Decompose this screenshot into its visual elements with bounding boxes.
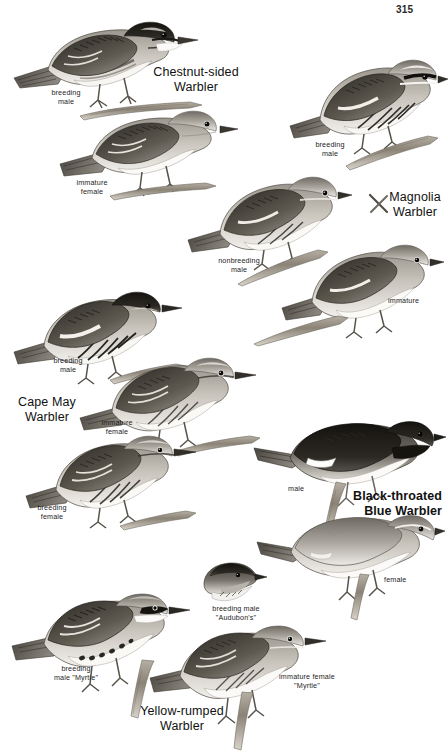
label-magnolia-nonbreeding-male: nonbreeding male	[206, 256, 272, 274]
title-line-2: Warbler	[25, 410, 69, 424]
title-line-1: Cape May	[18, 395, 76, 409]
title-line-1: Chestnut-sided	[153, 65, 238, 79]
label-myrtle-immature-female: immature female "Myrtle"	[262, 672, 352, 690]
bird-audubons-head-vignette	[198, 560, 268, 606]
label-btblue-female: female	[384, 575, 418, 584]
label-magnolia-breeding-male: breeding male	[302, 140, 358, 158]
title-line-1: Yellow-rumped	[140, 704, 224, 718]
label-magnolia-immature: immature	[388, 296, 440, 305]
label-line-1: immature female	[279, 672, 335, 681]
label-line-1: immature	[76, 178, 107, 187]
title-chestnut-sided-warbler: Chestnut-sided Warbler	[136, 65, 256, 96]
label-line-2: female	[81, 187, 103, 196]
label-line-1: breeding	[315, 140, 344, 149]
title-line-1: Black-throated	[353, 489, 442, 503]
label-line-2: "Myrtle"	[294, 681, 320, 690]
title-magnolia-warbler: Magnolia Warbler	[385, 190, 445, 221]
label-line-1: nonbreeding	[218, 256, 260, 265]
title-line-2: Warbler	[160, 719, 204, 733]
page-number: 315	[396, 4, 413, 15]
label-line-2: male "Myrtle"	[54, 673, 98, 682]
title-line-2: Warbler	[174, 80, 218, 94]
label-line-1: breeding	[61, 664, 90, 673]
label-btblue-male: male	[288, 484, 318, 493]
label-line-1: breeding	[37, 503, 66, 512]
label-myrtle-breeding-male: breeding male "Myrtle"	[24, 664, 128, 682]
branch-btblue-female	[338, 572, 382, 622]
label-line-2: male	[60, 365, 76, 374]
label-line-2: male	[322, 149, 338, 158]
label-chestnut-immature-female: immature female	[62, 178, 122, 196]
label-line-1: breeding male	[212, 604, 260, 613]
title-line-1: Magnolia	[389, 190, 441, 204]
label-capemay-breeding-female: breeding female	[22, 503, 82, 521]
label-line-1: immature	[101, 418, 132, 427]
branch-capemay-breeding-female	[118, 508, 198, 532]
branch-magnolia-immature	[252, 312, 352, 348]
label-line-2: "Audubon's"	[216, 613, 257, 622]
label-line-1: breeding	[51, 88, 80, 97]
label-audubons-breeding-male: breeding male "Audubon's"	[184, 604, 288, 622]
title-yellow-rumped-warbler: Yellow-rumped Warbler	[116, 704, 248, 735]
label-line-2: female	[41, 512, 63, 521]
title-line-2: Warbler	[393, 205, 437, 219]
label-line-2: male	[231, 265, 247, 274]
